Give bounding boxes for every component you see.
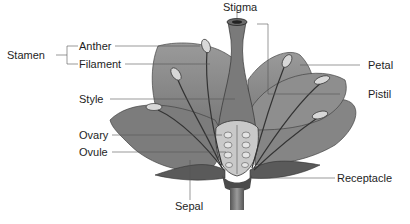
label-ovary: Ovary [79, 129, 108, 141]
label-filament: Filament [79, 58, 121, 70]
label-anther: Anther [79, 40, 111, 52]
label-petal: Petal [368, 59, 393, 71]
label-stamen: Stamen [7, 49, 45, 61]
label-sepal: Sepal [175, 200, 203, 212]
label-pistil: Pistil [368, 88, 391, 100]
label-stigma: Stigma [223, 1, 257, 13]
label-ovule: Ovule [79, 146, 108, 158]
label-style: Style [79, 93, 103, 105]
label-receptacle: Receptacle [337, 172, 392, 184]
stem [230, 188, 244, 210]
flower-illustration [0, 0, 410, 224]
